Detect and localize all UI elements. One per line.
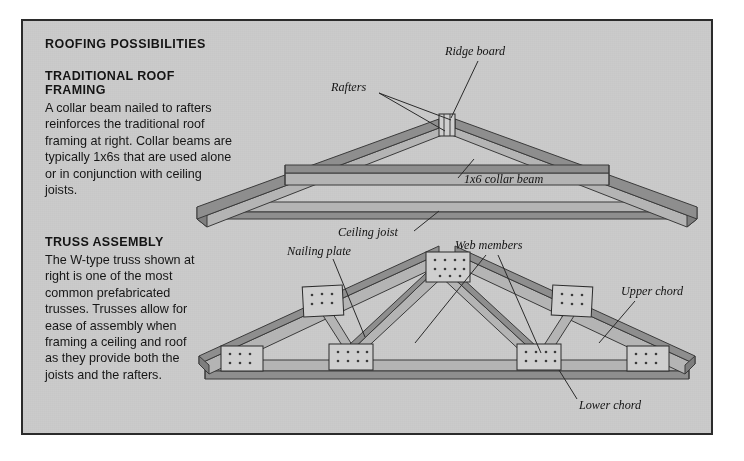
nailing-plate-heel-left	[221, 346, 263, 371]
ceiling-joist-member	[226, 202, 668, 219]
nailing-plate-upper-right	[551, 285, 593, 317]
diagram-truss-assembly: Nailing plate Web members Upper chord Lo…	[183, 231, 711, 431]
label-nailing-plate: Nailing plate	[286, 244, 352, 258]
section-body-traditional: A collar beam nailed to rafters reinforc…	[45, 100, 237, 198]
nailing-plate-heel-right	[627, 346, 669, 371]
label-collar-beam: 1x6 collar beam	[464, 172, 543, 186]
collar-beam-member	[285, 165, 609, 185]
ridge-board-member	[439, 114, 455, 136]
nailing-plate-lower-left-inner	[329, 344, 373, 370]
section-heading-traditional: TRADITIONAL ROOF FRAMING	[45, 69, 237, 97]
nailing-plate-upper-left	[302, 285, 344, 317]
label-web-members: Web members	[455, 238, 523, 252]
section-traditional-roof-framing: TRADITIONAL ROOF FRAMING A collar beam n…	[45, 69, 237, 198]
nailing-plate-peak	[426, 252, 470, 282]
diagram-traditional-roof-framing: Ridge board Rafters 1x6 collar beam Ceil…	[183, 35, 711, 235]
section-body-truss: The W-type truss shown at right is one o…	[45, 252, 195, 383]
label-lower-chord: Lower chord	[578, 398, 642, 412]
section-truss-assembly: TRUSS ASSEMBLY The W-type truss shown at…	[45, 235, 195, 383]
figure-page: ROOFING POSSIBILITIES TRADITIONAL ROOF F…	[0, 0, 744, 461]
page-title: ROOFING POSSIBILITIES	[45, 37, 206, 51]
label-rafters: Rafters	[330, 80, 366, 94]
section-heading-truss: TRUSS ASSEMBLY	[45, 235, 195, 249]
label-ridge-board: Ridge board	[444, 44, 506, 58]
nailing-plates	[221, 252, 669, 371]
roofing-figure-panel: ROOFING POSSIBILITIES TRADITIONAL ROOF F…	[21, 19, 713, 435]
lower-chord-member	[205, 360, 689, 379]
label-upper-chord: Upper chord	[621, 284, 684, 298]
